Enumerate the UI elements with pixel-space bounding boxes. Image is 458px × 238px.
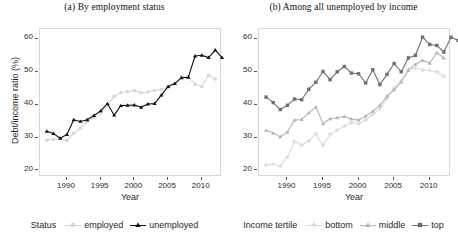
series-marker-bottom	[428, 68, 432, 72]
x-tick-mark	[322, 177, 323, 180]
series-marker-employed	[45, 138, 49, 142]
series-marker-top	[279, 108, 282, 111]
panel-b: (b) Among all unemployed by income 20304…	[229, 0, 458, 238]
x-tick-mark	[133, 177, 134, 180]
series-marker-top	[336, 70, 339, 73]
series-marker-employed	[160, 88, 164, 92]
series-marker-unemployed	[213, 48, 217, 51]
legend-key-circle-icon	[65, 220, 81, 230]
series-marker-bottom	[264, 163, 268, 167]
x-axis-title-b: Year	[258, 192, 450, 202]
y-tick-label: 40	[234, 98, 252, 107]
series-marker-middle	[264, 128, 268, 131]
series-marker-middle	[314, 105, 318, 108]
series-marker-top	[300, 98, 303, 101]
plot-area-b	[258, 28, 450, 176]
series-marker-employed	[207, 74, 211, 78]
series-marker-bottom	[356, 122, 360, 126]
y-tick-mark	[35, 71, 38, 72]
legend-entry-employed[interactable]: employed	[65, 220, 123, 230]
y-tick-label: 20	[234, 164, 252, 173]
series-marker-top	[378, 83, 381, 86]
x-tick-label: 1995	[306, 181, 338, 190]
x-tick-label: 2000	[342, 181, 374, 190]
legend-a: Status employedunemployed	[0, 220, 229, 230]
series-marker-employed	[213, 77, 217, 81]
y-tick-mark	[35, 169, 38, 170]
series-line-employed	[47, 75, 216, 140]
y-tick-mark	[254, 169, 257, 170]
series-marker-top	[414, 54, 417, 57]
x-tick-label: 2010	[413, 181, 445, 190]
legend-key-plus-icon	[306, 220, 322, 230]
x-tick-mark	[358, 177, 359, 180]
series-marker-top	[435, 44, 438, 47]
series-marker-employed	[65, 139, 69, 143]
x-tick-mark	[167, 177, 168, 180]
series-marker-top	[286, 104, 289, 107]
plot-svg-b	[259, 29, 451, 177]
panel-a-title: (a) By employment status	[0, 2, 229, 12]
series-marker-top	[428, 43, 431, 46]
series-marker-employed	[146, 90, 150, 94]
x-tick-mark	[429, 177, 430, 180]
series-marker-employed	[119, 91, 123, 95]
x-tick-label: 2005	[377, 181, 409, 190]
y-tick-label: 40	[15, 98, 33, 107]
legend-entry-bottom[interactable]: bottom	[306, 220, 353, 230]
legend-entry-middle[interactable]: middle	[360, 220, 406, 230]
plot-area-a	[39, 28, 221, 176]
series-line-bottom	[266, 68, 444, 166]
x-tick-label: 2010	[185, 181, 217, 190]
x-tick-mark	[66, 177, 67, 180]
legend-label-bottom: bottom	[325, 220, 353, 230]
legend-entry-unemployed[interactable]: unemployed	[130, 220, 198, 230]
x-tick-label: 2005	[151, 181, 183, 190]
series-marker-bottom	[420, 68, 424, 72]
y-tick-mark	[254, 104, 257, 105]
legend-entry-top[interactable]: top	[412, 220, 444, 230]
series-marker-bottom	[342, 124, 346, 128]
y-tick-mark	[254, 137, 257, 138]
x-axis-title-a: Year	[39, 192, 221, 202]
y-tick-mark	[35, 104, 38, 105]
y-tick-mark	[35, 38, 38, 39]
series-marker-unemployed	[65, 133, 69, 136]
legend-b: Income tertile bottommiddletop	[229, 220, 458, 230]
y-tick-mark	[35, 137, 38, 138]
series-marker-employed	[79, 126, 83, 130]
plot-svg-a	[40, 29, 222, 177]
series-marker-bottom	[349, 121, 353, 125]
series-marker-top	[400, 70, 403, 73]
series-marker-top	[350, 71, 353, 74]
legend-label-unemployed: unemployed	[149, 220, 198, 230]
series-marker-top	[449, 36, 452, 39]
x-tick-label: 1990	[50, 181, 82, 190]
series-marker-top	[357, 72, 360, 75]
y-tick-mark	[254, 71, 257, 72]
series-marker-top	[328, 78, 331, 81]
series-marker-top	[364, 81, 367, 84]
series-marker-top	[314, 81, 317, 84]
series-marker-top	[407, 56, 410, 59]
series-marker-employed	[72, 131, 76, 135]
y-tick-label: 60	[15, 32, 33, 41]
series-marker-top	[421, 36, 424, 39]
panel-a: (a) By employment status Debt/income rat…	[0, 0, 229, 238]
series-marker-employed	[126, 90, 130, 94]
series-marker-top	[264, 95, 267, 98]
series-marker-employed	[139, 91, 143, 95]
legend-label-employed: employed	[84, 220, 123, 230]
legend-key-triangle-icon	[360, 220, 376, 230]
series-marker-bottom	[335, 128, 339, 132]
figure-root: (a) By employment status Debt/income rat…	[0, 0, 458, 238]
y-tick-mark	[254, 38, 257, 39]
series-marker-middle	[420, 58, 424, 61]
series-marker-employed	[112, 95, 116, 99]
series-marker-top	[442, 50, 445, 53]
series-marker-top	[272, 101, 275, 104]
legend-label-middle: middle	[379, 220, 406, 230]
x-tick-mark	[286, 177, 287, 180]
series-marker-top	[321, 70, 324, 73]
legend-title-a: Status	[31, 220, 57, 230]
